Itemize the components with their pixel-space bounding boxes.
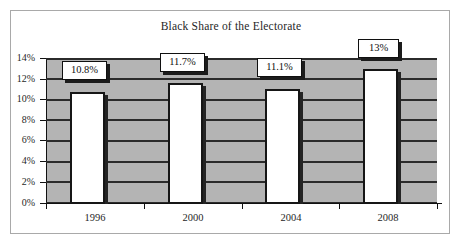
y-axis-label-6pct: 6% bbox=[7, 135, 35, 145]
y-axis-label-12pct: 12% bbox=[7, 74, 35, 84]
x-tick-4 bbox=[437, 204, 438, 209]
chart-title: Black Share of the Electorate bbox=[11, 20, 451, 32]
y-axis-label-0pct: 0% bbox=[7, 198, 35, 208]
y-axis-label-10pct: 10% bbox=[7, 94, 35, 104]
x-tick-2 bbox=[242, 204, 243, 209]
bar-1996[interactable] bbox=[70, 92, 105, 204]
x-axis-label-2008: 2008 bbox=[339, 212, 437, 224]
y-axis-label-14pct: 14% bbox=[7, 53, 35, 63]
y-tick-6pct bbox=[40, 140, 46, 141]
y-tick-14pct bbox=[40, 58, 46, 59]
y-axis-label-8pct: 8% bbox=[7, 115, 35, 125]
y-axis-label-2pct: 2% bbox=[7, 177, 35, 187]
data-label-2008: 13% bbox=[358, 39, 399, 58]
x-axis-label-2004: 2004 bbox=[242, 212, 340, 224]
data-label-1996: 10.8% bbox=[62, 61, 107, 80]
data-label-2004: 11.1% bbox=[257, 58, 302, 77]
y-tick-8pct bbox=[40, 120, 46, 121]
bar-2000[interactable] bbox=[168, 83, 203, 204]
x-tick-3 bbox=[339, 204, 340, 209]
x-tick-1 bbox=[144, 204, 145, 209]
y-tick-12pct bbox=[40, 79, 46, 80]
y-tick-10pct bbox=[40, 99, 46, 100]
y-axis-label-4pct: 4% bbox=[7, 156, 35, 166]
y-tick-4pct bbox=[40, 161, 46, 162]
data-label-2000: 11.7% bbox=[160, 53, 205, 72]
bar-2004[interactable] bbox=[265, 89, 300, 204]
chart-frame: Black Share of the Electorate 14% 12% 10… bbox=[10, 10, 450, 234]
x-axis-label-1996: 1996 bbox=[46, 212, 144, 224]
y-tick-2pct bbox=[40, 182, 46, 183]
x-tick-0 bbox=[46, 204, 47, 209]
bar-2008[interactable] bbox=[363, 69, 398, 204]
x-axis-label-2000: 2000 bbox=[144, 212, 242, 224]
